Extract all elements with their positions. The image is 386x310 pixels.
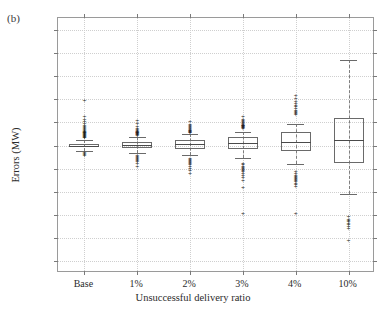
boxplot-2pct: ++++++++++++++++++++++++ — [175, 18, 205, 271]
gridline-horizontal — [58, 53, 373, 54]
outlier-marker: + — [82, 155, 86, 156]
gridline-horizontal — [58, 30, 373, 31]
gridline-horizontal — [58, 76, 373, 77]
gridline-horizontal — [58, 122, 373, 123]
outlier-marker: + — [241, 188, 245, 189]
x-tick-label: 4% — [288, 278, 301, 289]
y-tick-mark — [54, 192, 58, 193]
median-line — [69, 146, 99, 147]
gridline-horizontal — [58, 238, 373, 239]
y-tick-mark-right — [373, 146, 377, 147]
outlier-marker: + — [135, 135, 139, 136]
y-tick-mark-right — [373, 53, 377, 54]
gridline-horizontal — [58, 169, 373, 170]
panel-label: (b) — [7, 12, 20, 24]
y-tick-mark-right — [373, 215, 377, 216]
x-tick-label: Base — [74, 278, 93, 289]
median-line — [334, 140, 364, 141]
y-tick-mark-right — [373, 122, 377, 123]
boxplot-1pct: +++++++++++++++++++++++++ — [122, 18, 152, 271]
x-tick-mark — [296, 271, 297, 275]
outlier-marker: + — [241, 213, 245, 214]
outlier-marker: + — [347, 241, 351, 242]
y-tick-mark — [54, 30, 58, 31]
y-tick-mark-right — [373, 76, 377, 77]
whisker-cap-upper — [340, 60, 357, 61]
outlier-marker: + — [294, 213, 298, 214]
x-tick-mark — [137, 271, 138, 275]
y-tick-mark — [54, 146, 58, 147]
y-tick-mark — [54, 122, 58, 123]
y-tick-mark-right — [373, 238, 377, 239]
y-tick-mark-right — [373, 169, 377, 170]
gridline-horizontal — [58, 261, 373, 262]
y-tick-mark-right — [373, 30, 377, 31]
boxplot-4pct: +++++++++++++++++++++++++ — [281, 18, 311, 271]
boxplot-10pct: +++++++++ — [334, 18, 364, 271]
boxplot-Base: ++++++++++++++++++++++++++++++ — [69, 18, 99, 271]
outlier-marker: + — [294, 114, 298, 115]
outlier-marker: + — [241, 128, 245, 129]
y-tick-mark — [54, 99, 58, 100]
x-tick-label: 3% — [235, 278, 248, 289]
y-tick-mark-right — [373, 99, 377, 100]
x-tick-mark — [243, 271, 244, 275]
gridline-horizontal — [58, 192, 373, 193]
outlier-marker: + — [347, 228, 351, 229]
x-tick-mark — [349, 271, 350, 275]
whisker-cap-upper — [287, 124, 304, 125]
y-tick-mark — [54, 238, 58, 239]
median-line — [228, 143, 258, 144]
x-tick-label: 2% — [182, 278, 195, 289]
x-axis-label: Unsuccessful delivery ratio — [0, 292, 386, 303]
x-tick-mark — [190, 271, 191, 275]
outlier-marker: + — [188, 174, 192, 175]
whisker-cap-lower — [287, 164, 304, 165]
x-tick-label: 1% — [130, 278, 143, 289]
y-tick-mark — [54, 261, 58, 262]
outlier-marker: + — [188, 132, 192, 133]
outlier-marker: + — [241, 180, 245, 181]
outlier-marker: + — [294, 187, 298, 188]
boxplot-3pct: +++++++++++++++++++++++++++++ — [228, 18, 258, 271]
whisker-cap-lower — [235, 158, 252, 159]
median-line — [122, 145, 152, 146]
gridline-horizontal — [58, 99, 373, 100]
y-tick-mark — [54, 169, 58, 170]
y-tick-mark-right — [373, 261, 377, 262]
y-tick-mark — [54, 76, 58, 77]
median-line — [175, 144, 205, 145]
y-axis-label: Errors (MW) — [10, 95, 21, 215]
x-tick-mark — [84, 271, 85, 275]
outlier-marker: + — [135, 166, 139, 167]
outlier-marker: + — [82, 138, 86, 139]
x-tick-label: 10% — [338, 278, 356, 289]
y-tick-mark — [54, 215, 58, 216]
y-tick-mark-right — [373, 192, 377, 193]
y-tick-mark — [54, 53, 58, 54]
outlier-marker: + — [82, 101, 86, 102]
gridline-horizontal — [58, 146, 373, 147]
plot-area: ++++++++++++++++++++++++++++++++++++++++… — [57, 17, 374, 272]
whisker-cap-lower — [340, 194, 357, 195]
gridline-horizontal — [58, 215, 373, 216]
median-line — [281, 142, 311, 143]
boxplot-figure: (b) Errors (MW) Unsuccessful delivery ra… — [0, 0, 386, 310]
